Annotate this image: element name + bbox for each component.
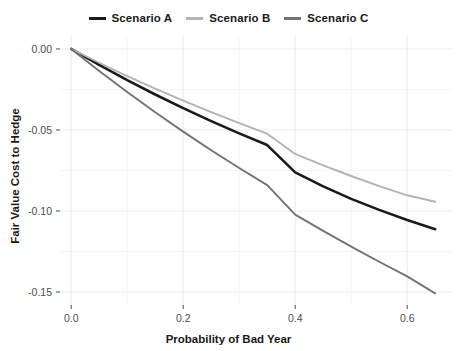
x-tick-label: 0.0 [64,312,79,324]
x-tick-label: 0.6 [400,312,415,324]
y-tick-label: -0.05 [8,124,52,136]
x-tick-label: 0.4 [288,312,303,324]
series-line-scenario-b [71,49,435,202]
y-tick-label: -0.15 [8,286,52,298]
series-line-scenario-c [71,49,435,293]
y-tick-label: -0.10 [8,205,52,217]
x-tick-label: 0.2 [176,312,191,324]
chart-figure: Scenario A Scenario B Scenario C Fair Va… [0,0,457,351]
y-tick-label: 0.00 [8,43,52,55]
plot-area [0,0,457,351]
